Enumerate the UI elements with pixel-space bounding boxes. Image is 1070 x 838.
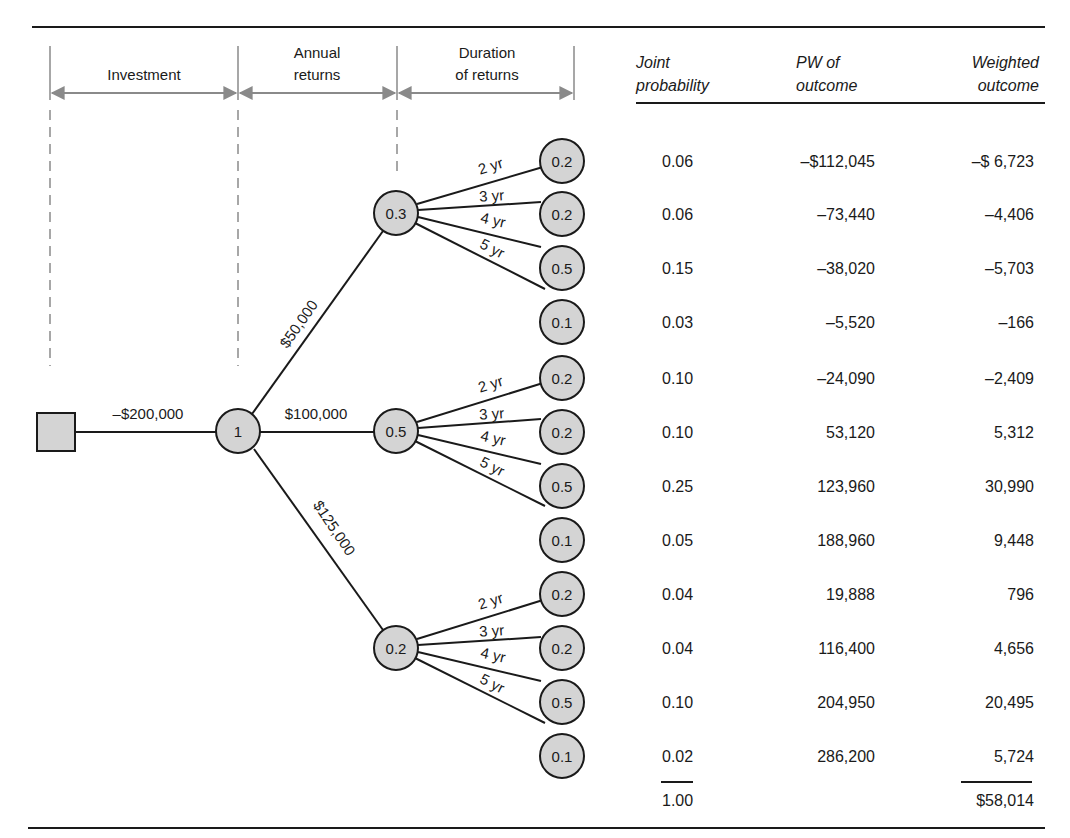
tree-edges	[75, 167, 545, 723]
root-chance-node-label: 1	[234, 423, 242, 440]
duration-label: 3 yr	[479, 621, 505, 640]
cell-weighted: –4,406	[985, 206, 1034, 223]
duration-label: 3 yr	[479, 186, 505, 205]
cell-pw: 188,960	[817, 532, 875, 549]
leaf-nodes: 0.2 0.2 0.5 0.1 0.2 0.2 0.5 0.1 0.2 0.2 …	[540, 139, 584, 778]
col-header-pw-line2: outcome	[796, 77, 857, 94]
cell-weighted: –$ 6,723	[972, 153, 1034, 170]
chance-node-annual-100000-prob: 0.5	[386, 423, 407, 440]
cell-joint: 0.04	[662, 640, 693, 657]
cell-pw: 204,950	[817, 694, 875, 711]
branch-label-125000: $125,000	[310, 497, 359, 558]
leaf-node-prob: 0.5	[552, 478, 573, 495]
cell-pw: –38,020	[817, 260, 875, 277]
cell-joint: 0.05	[662, 532, 693, 549]
leaf-node-prob: 0.2	[552, 586, 573, 603]
col-header-joint-line1: Joint	[635, 54, 670, 71]
duration-label: 3 yr	[479, 404, 505, 423]
leaf-node-prob: 0.2	[552, 206, 573, 223]
table-row: 0.10 204,950 20,495	[662, 694, 1034, 711]
cell-weighted: 4,656	[994, 640, 1034, 657]
cell-weighted: 5,724	[994, 748, 1034, 765]
decision-node-square	[37, 413, 75, 451]
cell-joint: 0.10	[662, 424, 693, 441]
stage-header-annual-returns-line2: returns	[294, 66, 341, 83]
total-weighted-outcome: $58,014	[976, 792, 1034, 809]
cell-weighted: 20,495	[985, 694, 1034, 711]
leaf-node-prob: 0.1	[552, 314, 573, 331]
branch-label-50000: $50,000	[276, 297, 321, 351]
cell-pw: 116,400	[818, 640, 875, 657]
leaf-node-prob: 0.5	[552, 260, 573, 277]
cell-pw: –24,090	[817, 370, 875, 387]
table-row: 0.15 –38,020 –5,703	[662, 260, 1034, 277]
cell-weighted: 30,990	[985, 478, 1034, 495]
table-row: 0.05 188,960 9,448	[662, 532, 1034, 549]
table-row: 0.04 19,888 796	[662, 586, 1034, 603]
cell-pw: 19,888	[826, 586, 875, 603]
table-row: 0.06 –73,440 –4,406	[662, 206, 1034, 223]
cell-pw: 123,960	[817, 478, 875, 495]
cell-joint: 0.04	[662, 586, 693, 603]
cell-weighted: 9,448	[994, 532, 1034, 549]
investment-amount-label: –$200,000	[113, 405, 184, 422]
cell-joint: 0.06	[662, 206, 693, 223]
cell-pw: –$112,045	[801, 153, 876, 170]
cell-weighted: –2,409	[985, 370, 1034, 387]
table-row: 0.04 116,400 4,656	[662, 640, 1034, 657]
duration-label: 4 yr	[479, 209, 507, 231]
cell-joint: 0.25	[662, 478, 693, 495]
outcome-table: Joint probability PW of outcome Weighted…	[635, 54, 1045, 809]
stage-header-duration-line1: Duration	[459, 44, 516, 61]
cell-joint: 0.10	[662, 694, 693, 711]
stage-header-investment: Investment	[107, 66, 181, 83]
leaf-node-prob: 0.2	[552, 370, 573, 387]
cell-pw: –5,520	[826, 314, 875, 331]
totals-row: 1.00 $58,014	[662, 792, 1034, 809]
leaf-node-prob: 0.2	[552, 153, 573, 170]
table-row: 0.25 123,960 30,990	[662, 478, 1034, 495]
decision-tree-figure: Investment Annual returns Duration of re…	[0, 0, 1070, 838]
cell-joint: 0.10	[662, 370, 693, 387]
duration-label: 2 yr	[476, 154, 505, 178]
col-header-weighted-line2: outcome	[978, 77, 1039, 94]
cell-pw: 286,200	[817, 748, 875, 765]
leaf-node-prob: 0.5	[552, 694, 573, 711]
chance-node-annual-125000-prob: 0.2	[386, 640, 407, 657]
cell-joint: 0.03	[662, 314, 693, 331]
duration-label: 4 yr	[479, 644, 507, 666]
branch-label-100000: $100,000	[285, 405, 348, 422]
cell-weighted: 796	[1007, 586, 1034, 603]
leaf-node-prob: 0.1	[552, 532, 573, 549]
cell-weighted: –166	[998, 314, 1034, 331]
table-row: 0.10 53,120 5,312	[662, 424, 1034, 441]
table-row: 0.03 –5,520 –166	[662, 314, 1034, 331]
table-row: 0.06 –$112,045 –$ 6,723	[662, 153, 1034, 170]
leaf-node-prob: 0.2	[552, 424, 573, 441]
stage-header-duration-line2: of returns	[455, 66, 518, 83]
duration-label: 2 yr	[476, 589, 505, 613]
cell-pw: 53,120	[826, 424, 875, 441]
col-header-weighted-line1: Weighted	[972, 54, 1040, 71]
col-header-joint-line2: probability	[635, 77, 710, 94]
stage-header-annual-returns-line1: Annual	[294, 44, 341, 61]
cell-weighted: 5,312	[994, 424, 1034, 441]
duration-label: 4 yr	[479, 427, 507, 449]
cell-joint: 0.15	[662, 260, 693, 277]
table-row: 0.02 286,200 5,724	[662, 748, 1034, 765]
chance-node-annual-50000-prob: 0.3	[386, 205, 407, 222]
duration-label: 2 yr	[476, 372, 505, 396]
leaf-node-prob: 0.1	[552, 748, 573, 765]
col-header-pw-line1: PW of	[796, 54, 841, 71]
cell-joint: 0.02	[662, 748, 693, 765]
table-row: 0.10 –24,090 –2,409	[662, 370, 1034, 387]
cell-pw: –73,440	[817, 206, 875, 223]
cell-joint: 0.06	[662, 153, 693, 170]
leaf-node-prob: 0.2	[552, 640, 573, 657]
cell-weighted: –5,703	[985, 260, 1034, 277]
total-joint-probability: 1.00	[662, 792, 693, 809]
